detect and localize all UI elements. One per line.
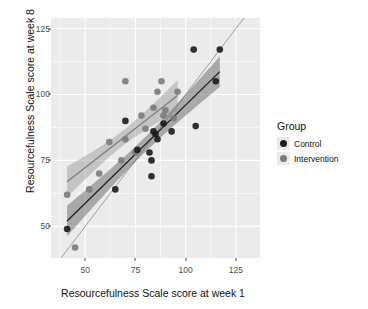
x-tick-label: 75	[115, 265, 155, 275]
y-tick-label: 100	[10, 89, 50, 99]
x-tick-label: 50	[65, 265, 105, 275]
data-point-control	[122, 118, 129, 125]
data-point-intervention	[142, 126, 149, 133]
data-point-intervention	[122, 78, 129, 85]
y-tick-label: 75	[10, 155, 50, 165]
plot-panel	[51, 18, 260, 258]
data-point-control	[64, 226, 71, 233]
data-point-intervention	[138, 112, 145, 119]
x-axis-title: Resourcefulness Scale score at week 1	[48, 287, 258, 299]
data-point-control	[148, 157, 155, 164]
legend-entries: ControlIntervention	[277, 137, 365, 165]
data-point-intervention	[154, 89, 161, 96]
data-point-control	[134, 147, 141, 154]
data-point-intervention	[106, 139, 113, 146]
data-point-control	[217, 46, 224, 53]
data-point-intervention	[96, 170, 103, 177]
data-point-control	[213, 78, 220, 85]
x-tick-mark	[135, 258, 136, 261]
data-point-control	[192, 123, 199, 130]
legend: Group ControlIntervention	[277, 120, 365, 167]
legend-title: Group	[277, 120, 365, 132]
data-point-control	[148, 173, 155, 180]
y-tick-label: 125	[10, 24, 50, 34]
data-point-intervention	[174, 89, 181, 96]
data-point-intervention	[150, 104, 157, 111]
legend-item-label: Control	[294, 139, 321, 149]
legend-item-intervention[interactable]: Intervention	[277, 152, 365, 165]
legend-dot-icon	[280, 155, 287, 162]
y-tick-label: 50	[10, 221, 50, 231]
x-tick-label: 125	[216, 265, 256, 275]
data-point-intervention	[158, 78, 165, 85]
legend-item-label: Intervention	[294, 154, 338, 164]
data-point-control	[112, 186, 119, 193]
data-point-control	[146, 149, 153, 156]
data-point-intervention	[118, 157, 125, 164]
x-tick-mark	[185, 258, 186, 261]
plot-canvas	[51, 18, 260, 258]
x-tick-label: 100	[166, 265, 206, 275]
data-point-control	[190, 46, 197, 53]
legend-dot-icon	[280, 140, 287, 147]
data-point-control	[160, 120, 167, 127]
data-point-intervention	[122, 136, 129, 143]
x-tick-mark	[85, 258, 86, 261]
chart-figure: Resourcefulness Scale score at week 8 Re…	[0, 0, 368, 309]
data-point-intervention	[86, 186, 93, 193]
data-point-intervention	[64, 191, 71, 198]
data-point-control	[154, 136, 161, 143]
data-point-intervention	[162, 107, 169, 114]
data-point-control	[168, 128, 175, 135]
legend-item-control[interactable]: Control	[277, 137, 365, 150]
data-point-intervention	[170, 115, 177, 122]
legend-key-swatch	[277, 152, 290, 165]
data-point-intervention	[72, 244, 79, 251]
x-tick-mark	[235, 258, 236, 261]
legend-key-swatch	[277, 137, 290, 150]
